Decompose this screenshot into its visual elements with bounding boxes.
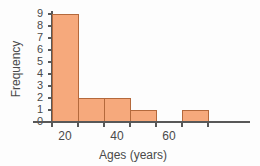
bar-bin-45-55 [130,110,156,122]
y-tick-label-1: 1 [37,103,43,115]
y-tick-label-5: 5 [37,55,43,67]
y-tick-label-8: 8 [37,19,43,31]
y-axis-title: Frequency [9,41,23,98]
histogram-chart: Frequency 9 8 7 6 5 4 3 2 1 0 [0,0,260,166]
bar-bin-25-35 [78,98,104,122]
bar-bin-15-25 [52,14,78,122]
y-tick-label-7: 7 [37,31,43,43]
bar-bin-65-75 [182,110,208,122]
y-tick-label-4: 4 [37,67,43,79]
bar-bin-35-45 [104,98,130,122]
y-tick-label-9: 9 [37,7,43,19]
x-axis-title: Ages (years) [99,148,167,162]
x-tick-label-60: 60 [162,129,176,143]
y-tick-label-6: 6 [37,43,43,55]
y-tick-label-0: 0 [37,115,43,127]
y-tick-label-3: 3 [37,79,43,91]
x-tick-label-40: 40 [110,129,124,143]
chart-canvas: Frequency 9 8 7 6 5 4 3 2 1 0 [0,0,260,166]
y-tick-label-2: 2 [37,91,43,103]
x-tick-label-20: 20 [58,129,72,143]
